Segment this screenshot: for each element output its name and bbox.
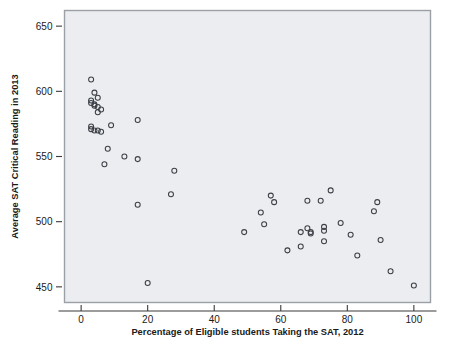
- x-axis-title: Percentage of Eligible students Taking t…: [131, 327, 363, 337]
- x-tick-label: 60: [275, 314, 287, 325]
- x-tick-label: 20: [142, 314, 154, 325]
- y-tick-label: 500: [36, 216, 53, 227]
- plot-svg: 020406080100450500550600650Percentage of…: [0, 0, 449, 351]
- y-axis-title: Average SAT Critical Reading in 2013: [10, 74, 20, 238]
- y-tick-label: 450: [36, 282, 53, 293]
- x-tick-label: 40: [209, 314, 221, 325]
- x-tick-label: 100: [406, 314, 423, 325]
- y-tick-label: 550: [36, 151, 53, 162]
- plot-texture-overlay: [65, 11, 431, 303]
- y-axis: 450500550600650: [36, 21, 62, 293]
- y-tick-label: 650: [36, 21, 53, 32]
- scatter-chart: 020406080100450500550600650Percentage of…: [0, 0, 449, 351]
- y-tick-label: 600: [36, 86, 53, 97]
- x-tick-label: 80: [342, 314, 354, 325]
- x-axis: 020406080100: [59, 305, 437, 325]
- x-tick-label: 0: [78, 314, 84, 325]
